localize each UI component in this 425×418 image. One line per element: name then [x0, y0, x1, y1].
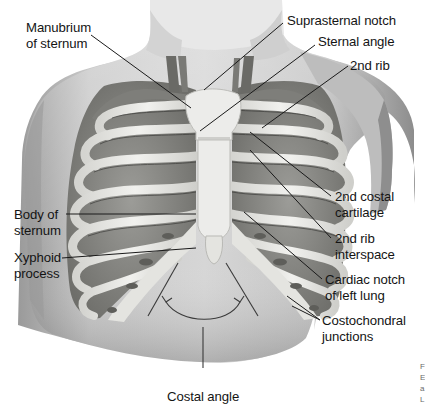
label-2nd-rib-interspace-line1: 2nd rib: [335, 231, 395, 247]
label-costochondral-junctions: Costochondral junctions: [322, 313, 406, 345]
label-2nd-costal-cartilage: 2nd costal cartilage: [335, 189, 394, 221]
label-xyphoid-process-line1: Xyphoid: [14, 250, 61, 266]
label-costochondral-junctions-line2: junctions: [322, 329, 406, 345]
label-body-of-sternum-line1: Body of: [14, 207, 61, 223]
label-2nd-rib-interspace-line2: interspace: [335, 247, 395, 263]
label-xyphoid-process-line2: process: [14, 266, 61, 282]
label-body-of-sternum-line2: sternum: [14, 223, 61, 239]
edge-fragment-line1: F: [420, 361, 425, 372]
label-suprasternal-notch: Suprasternal notch: [287, 13, 396, 29]
label-2nd-costal-cartilage-line1: 2nd costal: [335, 189, 394, 205]
edge-text-fragment: F E a L: [420, 361, 425, 405]
label-manubrium-line2: of sternum: [26, 36, 91, 52]
edge-fragment-line4: L: [420, 394, 425, 405]
label-manubrium-line1: Manubrium: [26, 20, 91, 36]
label-costal-angle: Costal angle: [167, 389, 239, 405]
edge-fragment-line2: E: [420, 372, 425, 383]
label-cardiac-notch-line2: of left lung: [325, 288, 405, 304]
label-costochondral-junctions-line1: Costochondral: [322, 313, 406, 329]
label-2nd-rib: 2nd rib: [350, 58, 390, 74]
label-2nd-costal-cartilage-line2: cartilage: [335, 205, 394, 221]
label-cardiac-notch-line1: Cardiac notch: [325, 272, 405, 288]
label-sternal-angle: Sternal angle: [318, 34, 394, 50]
label-cardiac-notch: Cardiac notch of left lung: [325, 272, 405, 304]
label-manubrium: Manubrium of sternum: [26, 20, 91, 52]
label-body-of-sternum: Body of sternum: [14, 207, 61, 239]
label-2nd-rib-interspace: 2nd rib interspace: [335, 231, 395, 263]
label-xyphoid-process: Xyphoid process: [14, 250, 61, 282]
edge-fragment-line3: a: [420, 383, 425, 394]
